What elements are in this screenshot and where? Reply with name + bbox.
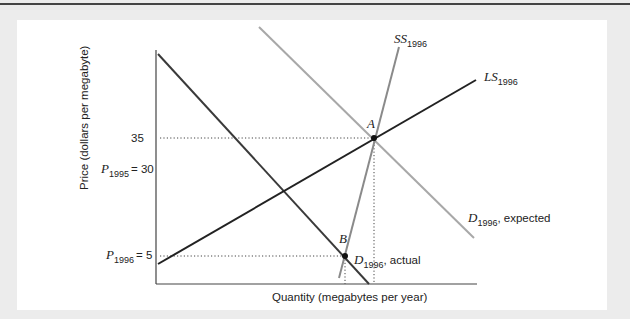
short-run-supply-line xyxy=(339,47,399,278)
point-a xyxy=(371,135,377,141)
y-tick-p1995: P1995= 30 xyxy=(100,161,154,179)
y-axis-title: Price (dollars per megabyte) xyxy=(78,45,90,190)
ls-label: LS1996 xyxy=(483,69,518,87)
d-expected-label: D1996, expected xyxy=(467,210,551,228)
ss-label: SS1996 xyxy=(394,31,427,49)
demand-actual-line xyxy=(158,54,369,284)
chart: A B 35 P1995= 30 P1996= 5 Price (dollars… xyxy=(0,0,630,319)
long-run-supply-line xyxy=(158,80,476,264)
point-a-label: A xyxy=(366,116,375,131)
point-b-label: B xyxy=(339,231,347,246)
y-tick-p1996: P1996= 5 xyxy=(105,247,152,265)
demand-expected-line xyxy=(259,27,474,238)
d-actual-label: D1996, actual xyxy=(353,252,421,270)
point-b xyxy=(342,253,348,259)
y-tick-35: 35 xyxy=(131,132,144,144)
x-axis-title: Quantity (megabytes per year) xyxy=(272,291,427,303)
